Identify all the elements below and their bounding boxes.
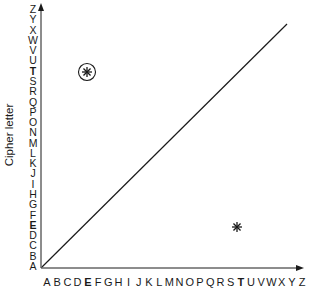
x-letter-i: I [127,276,130,288]
y-letter-i: I [32,178,35,190]
x-letter-q: Q [206,276,215,288]
x-axis-arrow-icon [296,265,304,271]
x-letter-z: Z [299,276,306,288]
y-axis-letters: ABCDEFGHIJKLMNOPQRSTUVWXYZ [28,3,38,272]
cipher-mapping-diagram: Cipher letter ABCDEFGHIJKLMNOPQRSTUVWXYZ… [0,0,313,298]
y-letter-j: J [30,167,35,179]
y-letter-r: R [29,85,37,97]
y-letter-m: M [29,137,38,149]
x-letter-j: J [136,276,142,288]
x-letter-t: T [237,276,244,288]
x-letter-f: F [95,276,102,288]
x-letter-x: X [278,276,286,288]
star-icon [232,222,242,232]
x-letter-c: C [63,276,71,288]
x-letter-d: D [74,276,82,288]
x-letter-m: M [165,276,174,288]
y-letter-p: P [29,106,36,118]
circled-star-icon [79,64,96,81]
x-letter-r: R [216,276,224,288]
x-letter-w: W [266,276,277,288]
x-letter-o: O [186,276,195,288]
y-letter-y: Y [29,13,36,25]
y-letter-f: F [30,209,36,221]
y-letter-q: Q [29,96,37,108]
y-letter-z: Z [30,3,37,15]
x-letter-y: Y [288,276,296,288]
x-letter-p: P [196,276,203,288]
y-letter-t: T [30,65,37,77]
y-letter-k: K [29,157,36,169]
y-letter-o: O [29,116,37,128]
y-letter-a: A [29,260,36,272]
y-letter-e: E [29,219,36,231]
y-letter-v: V [29,44,36,56]
x-letter-h: H [114,276,122,288]
y-letter-c: C [29,239,37,251]
y-letter-g: G [29,198,37,210]
y-letter-d: D [29,229,37,241]
y-letter-s: S [29,75,36,87]
x-letter-l: L [156,276,162,288]
x-axis-letters: ABCDEFGHIJKLMNOPQRSTUVWXYZ [43,276,305,288]
x-letter-n: N [176,276,184,288]
x-letter-v: V [258,276,266,288]
y-letter-w: W [28,34,38,46]
x-letter-a: A [43,276,51,288]
y-letter-l: L [30,147,36,159]
x-letter-b: B [54,276,61,288]
x-letter-s: S [227,276,234,288]
y-letter-n: N [29,126,37,138]
x-letter-k: K [145,276,153,288]
plot-area: ABCDEFGHIJKLMNOPQRSTUVWXYZ ABCDEFGHIJKLM… [0,0,313,298]
y-letter-u: U [29,54,37,66]
y-letter-x: X [29,24,36,36]
diagonal-identity-line [42,24,287,267]
y-letter-b: B [29,250,36,262]
x-letter-e: E [84,276,91,288]
x-letter-u: U [247,276,255,288]
y-axis-arrow-icon [38,3,44,11]
y-letter-h: H [29,188,37,200]
x-axis-label-clipped [0,292,313,298]
x-letter-g: G [104,276,113,288]
